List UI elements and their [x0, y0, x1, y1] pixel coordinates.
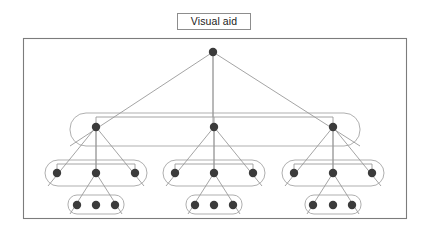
sibling-brackets	[57, 52, 372, 173]
tree-node	[210, 169, 218, 177]
figure-canvas: Visual aid	[0, 0, 428, 227]
tree-node	[210, 201, 218, 209]
tree-node	[309, 201, 317, 209]
tree-node	[92, 201, 100, 209]
tree-nodes	[53, 48, 376, 209]
tree-node	[92, 169, 100, 177]
tree-node	[111, 201, 119, 209]
tree-node	[209, 48, 217, 56]
tree-node	[73, 201, 81, 209]
tree-node	[92, 123, 100, 131]
root-bracket	[96, 52, 333, 117]
tree-diagram	[0, 0, 428, 227]
tree-node	[329, 201, 337, 209]
tree-node	[131, 169, 139, 177]
tree-node	[210, 123, 218, 131]
tree-node	[329, 169, 337, 177]
tree-node	[171, 169, 179, 177]
tree-node	[191, 201, 199, 209]
tree-node	[368, 169, 376, 177]
tree-node	[329, 123, 337, 131]
tree-node	[229, 201, 237, 209]
root-triangle	[70, 52, 360, 146]
tree-node	[249, 169, 257, 177]
subtree-triangles	[48, 52, 381, 214]
tree-node	[290, 169, 298, 177]
tree-node	[53, 169, 61, 177]
tree-node	[348, 201, 356, 209]
